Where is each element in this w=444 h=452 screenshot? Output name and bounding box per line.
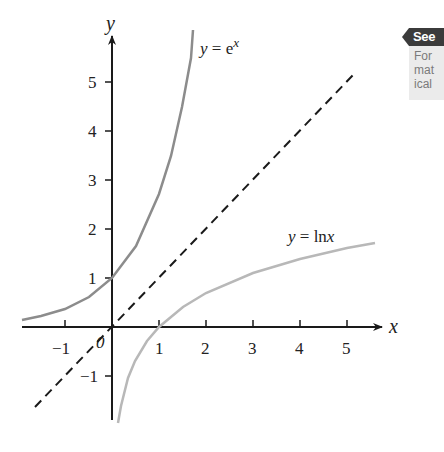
function-graph: −1 1 2 3 4 5 5 4 3 2 1 −1 0 y x y = ex y…: [0, 0, 444, 452]
exp-curve-label: y = ex: [198, 35, 239, 58]
sidebar-note-box: For mat ical: [409, 46, 444, 100]
x-tick-label: −1: [52, 339, 70, 358]
y-tick-label: 1: [88, 269, 97, 288]
see-tag-label: See: [409, 28, 444, 46]
y-tick-label: 4: [88, 122, 97, 141]
sidebar-note-line: ical: [414, 77, 444, 91]
sidebar-note-line: mat: [414, 63, 444, 77]
y-ticks: [105, 82, 112, 376]
y-tick-label: 5: [88, 73, 97, 92]
exp-curve: [22, 30, 193, 320]
x-tick-label: 5: [342, 339, 351, 358]
ln-curve: [118, 243, 375, 423]
see-tag: See: [402, 28, 444, 46]
y-tick-label: 2: [88, 220, 97, 239]
x-axis-label: x: [388, 315, 398, 337]
y-axis-label: y: [104, 12, 115, 35]
tag-arrow-icon: [402, 28, 409, 46]
x-tick-label: 2: [201, 339, 210, 358]
x-tick-label: 1: [155, 339, 164, 358]
x-tick-label: 3: [248, 339, 257, 358]
sidebar-note-line: For: [414, 49, 444, 63]
ln-curve-label: y = lnx: [286, 227, 335, 246]
x-ticks: [65, 320, 347, 327]
y-tick-label: 3: [88, 171, 97, 190]
x-tick-label: 4: [295, 339, 304, 358]
y-tick-label: −1: [80, 367, 98, 386]
